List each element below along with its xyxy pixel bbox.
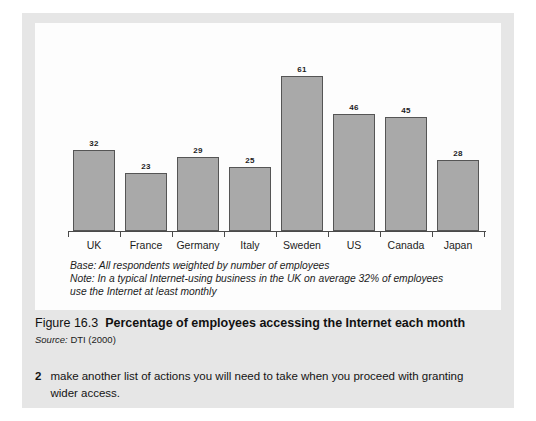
figure-caption-block: Figure 16.3 Percentage of employees acce… [35, 316, 501, 345]
figure-source: Source: DTI (2000) [35, 334, 501, 345]
category-label-france: France [120, 239, 172, 251]
bar-chart-plot-area: 3223292561464528 [68, 31, 484, 231]
category-label-canada: Canada [380, 239, 432, 251]
figure-caption: Figure 16.3 Percentage of employees acce… [35, 316, 501, 331]
bar [73, 150, 115, 231]
bar [333, 114, 375, 231]
x-axis-tick [484, 232, 485, 237]
bar [437, 160, 479, 231]
x-axis-tick [224, 232, 225, 237]
bar-value-label: 29 [177, 146, 219, 155]
x-axis-tick [380, 232, 381, 237]
footnote-note-line-1: Note: In a typical Internet-using busine… [70, 272, 490, 285]
footnote-base: Base: All respondents weighted by number… [70, 259, 490, 272]
x-axis-category-labels: UKFranceGermanyItalySwedenUSCanadaJapan [68, 239, 484, 255]
bar [125, 173, 167, 231]
chart-panel: 3223292561464528 UKFranceGermanyItalySwe… [35, 23, 501, 310]
source-label: Source: [35, 334, 68, 345]
x-axis-tick [172, 232, 173, 237]
x-axis-tick [68, 232, 69, 237]
list-item-text: make another list of actions you will ne… [50, 368, 487, 401]
bar-slot: 25 [229, 31, 271, 231]
book-page: 3223292561464528 UKFranceGermanyItalySwe… [22, 13, 514, 408]
source-value: DTI (2000) [70, 334, 115, 345]
body-list-item: 2 make another list of actions you will … [35, 368, 487, 401]
x-axis-tick [328, 232, 329, 237]
list-item-number: 2 [35, 368, 41, 401]
chart-footnotes: Base: All respondents weighted by number… [70, 259, 490, 299]
bar-value-label: 25 [229, 156, 271, 165]
bar [229, 167, 271, 231]
bar-slot: 61 [281, 31, 323, 231]
x-axis-tick [276, 232, 277, 237]
category-label-uk: UK [68, 239, 120, 251]
figure-number: Figure 16.3 [35, 316, 98, 330]
x-axis-line [68, 231, 486, 232]
category-label-japan: Japan [432, 239, 484, 251]
bar-value-label: 32 [73, 139, 115, 148]
x-axis-tick [120, 232, 121, 237]
footnote-note-line-2: use the Internet at least monthly [70, 285, 490, 298]
bar-value-label: 46 [333, 103, 375, 112]
bar-value-label: 28 [437, 149, 479, 158]
bar-slot: 32 [73, 31, 115, 231]
bar [385, 117, 427, 231]
bar [281, 76, 323, 231]
bar [177, 157, 219, 231]
category-label-sweden: Sweden [276, 239, 328, 251]
bar-slot: 29 [177, 31, 219, 231]
bar-value-label: 23 [125, 162, 167, 171]
figure-title: Percentage of employees accessing the In… [105, 316, 465, 330]
x-axis-tick [432, 232, 433, 237]
bar-slot: 23 [125, 31, 167, 231]
bar-slot: 28 [437, 31, 479, 231]
bar-slot: 45 [385, 31, 427, 231]
category-label-italy: Italy [224, 239, 276, 251]
bar-slot: 46 [333, 31, 375, 231]
bar-value-label: 45 [385, 106, 427, 115]
category-label-germany: Germany [172, 239, 224, 251]
category-label-us: US [328, 239, 380, 251]
bar-value-label: 61 [281, 65, 323, 74]
